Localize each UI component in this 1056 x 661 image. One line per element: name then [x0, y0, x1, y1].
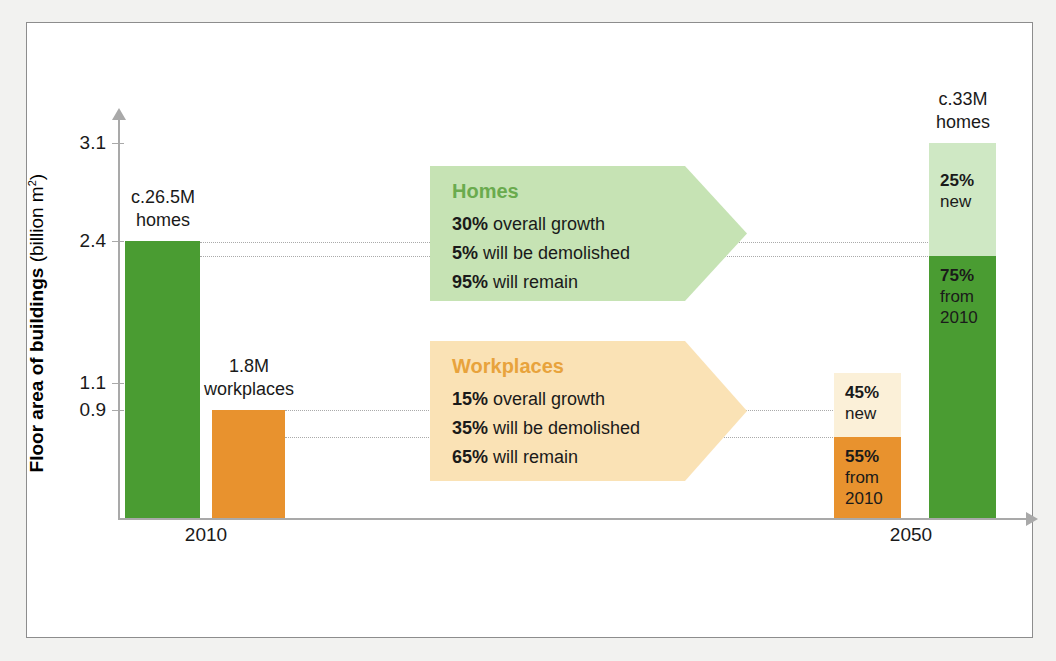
x-tick-label-2010: 2010 — [136, 524, 276, 546]
callout-homes-line-2: 5% will be demolished — [452, 239, 667, 268]
bar-caption-homes-2050-line2: homes — [892, 111, 1034, 134]
callout-homes-line-1-text: overall growth — [488, 214, 605, 234]
y-axis-title-paren: ) — [26, 174, 47, 180]
callout-homes-line-1: 30% overall growth — [452, 210, 667, 239]
bar-segment-homes-2050-new: 25% new — [929, 143, 996, 256]
y-tick-label-2-4: 2.4 — [46, 230, 106, 252]
y-axis-title: Floor area of buildings (billion m2) — [26, 133, 48, 513]
homes-2050-old-sub1: from — [940, 286, 978, 307]
y-tick-mark-2-4 — [112, 241, 124, 242]
callout-workplaces-line-3: 65% will remain — [452, 443, 667, 472]
homes-2050-old-pct: 75% — [940, 265, 978, 286]
workplaces-2050-new-pct: 45% — [845, 382, 879, 403]
callout-homes-arrowhead-icon — [685, 166, 747, 301]
callout-workplaces-line-1-text: overall growth — [488, 389, 605, 409]
callout-workplaces-line-2: 35% will be demolished — [452, 414, 667, 443]
y-tick-mark-1-1 — [112, 383, 124, 384]
workplaces-2050-old-sub1: from — [845, 467, 883, 488]
workplaces-2050-old-pct: 55% — [845, 446, 883, 467]
callout-workplaces-line-2-value: 35% — [452, 418, 488, 438]
callout-homes-line-3-text: will remain — [488, 272, 578, 292]
callout-workplaces-line-3-value: 65% — [452, 447, 488, 467]
callout-homes-line-3-value: 95% — [452, 272, 488, 292]
workplaces-2050-old-sub2: 2010 — [845, 488, 883, 509]
y-axis-line — [118, 118, 120, 519]
bar-segment-workplaces-2050-from2010-label: 55% from 2010 — [845, 446, 883, 509]
bar-workplaces-2010 — [212, 410, 285, 518]
bar-homes-2050: 25% new 75% from 2010 — [929, 143, 996, 518]
y-axis-arrow-icon — [112, 108, 126, 120]
x-axis-line — [118, 518, 1028, 520]
bar-segment-workplaces-2050-new-label: 45% new — [845, 382, 879, 424]
callout-workplaces-line-2-text: will be demolished — [488, 418, 640, 438]
callout-workplaces-line-1: 15% overall growth — [452, 385, 667, 414]
y-tick-label-3-1: 3.1 — [46, 132, 106, 154]
bar-caption-homes-2010-line2: homes — [92, 209, 234, 232]
callout-homes-line-3: 95% will remain — [452, 268, 667, 297]
y-axis-title-units: (billion m — [26, 186, 47, 267]
callout-workplaces: Workplaces 15% overall growth 35% will b… — [430, 341, 685, 481]
x-tick-label-2050: 2050 — [841, 524, 981, 546]
x-axis-arrow-icon — [1026, 512, 1038, 526]
callout-homes: Homes 30% overall growth 5% will be demo… — [430, 166, 685, 301]
bar-workplaces-2050: 45% new 55% from 2010 — [834, 373, 901, 518]
chart-plot-area: Floor area of buildings (billion m2) 3.1… — [0, 0, 1056, 661]
y-axis-title-superscript: 2 — [26, 180, 38, 186]
homes-2050-new-sub: new — [940, 191, 974, 212]
callout-homes-line-1-value: 30% — [452, 214, 488, 234]
bar-caption-workplaces-2010-line1: 1.8M — [179, 355, 319, 378]
bar-segment-homes-2050-new-label: 25% new — [940, 170, 974, 212]
bar-caption-homes-2050-line1: c.33M — [892, 88, 1034, 111]
bar-segment-workplaces-2050-from2010: 55% from 2010 — [834, 437, 901, 518]
callout-workplaces-arrowhead-icon — [685, 341, 747, 481]
bar-segment-homes-2050-from2010-label: 75% from 2010 — [940, 265, 978, 328]
bar-caption-homes-2010-line1: c.26.5M — [92, 186, 234, 209]
y-tick-label-0-9: 0.9 — [46, 399, 106, 421]
callout-workplaces-title: Workplaces — [452, 355, 667, 378]
callout-homes-line-2-text: will be demolished — [478, 243, 630, 263]
y-tick-mark-3-1 — [112, 143, 124, 144]
bar-segment-workplaces-2050-new: 45% new — [834, 373, 901, 437]
bar-caption-homes-2010: c.26.5M homes — [92, 186, 234, 232]
homes-2050-new-pct: 25% — [940, 170, 974, 191]
bar-caption-homes-2050: c.33M homes — [892, 88, 1034, 134]
y-tick-mark-0-9 — [112, 410, 124, 411]
workplaces-2050-new-sub: new — [845, 403, 879, 424]
homes-2050-old-sub2: 2010 — [940, 307, 978, 328]
callout-workplaces-line-1-value: 15% — [452, 389, 488, 409]
y-axis-title-bold: Floor area of buildings — [26, 268, 47, 473]
callout-homes-title: Homes — [452, 180, 667, 203]
callout-workplaces-line-3-text: will remain — [488, 447, 578, 467]
bar-caption-workplaces-2010: 1.8M workplaces — [179, 355, 319, 401]
callout-homes-line-2-value: 5% — [452, 243, 478, 263]
bar-segment-homes-2050-from2010: 75% from 2010 — [929, 256, 996, 518]
y-tick-label-1-1: 1.1 — [46, 372, 106, 394]
bar-caption-workplaces-2010-line2: workplaces — [179, 378, 319, 401]
